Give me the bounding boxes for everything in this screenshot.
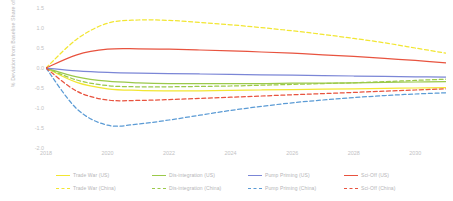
legend-label: Sci-Off (US) [361, 172, 389, 178]
legend-swatch [56, 175, 70, 176]
x-tick-label: 2020 [102, 150, 114, 156]
x-tick-label: 2026 [286, 150, 298, 156]
legend-item[interactable]: Pump Priming (China) [248, 183, 316, 193]
legend-item[interactable]: Trade War (China) [56, 183, 116, 193]
legend-label: Sci-Off (China) [361, 185, 395, 191]
legend-swatch [344, 188, 358, 189]
y-tick-label: -1.5 [35, 125, 44, 131]
legend-swatch [248, 188, 262, 189]
series-line [46, 68, 446, 91]
y-tick-label: 0.0 [37, 65, 45, 71]
y-tick-label: -0.5 [35, 85, 44, 91]
series-line [46, 20, 446, 68]
x-axis-tick-labels: 2018202020222024202620282030 [46, 150, 446, 164]
series-canvas [46, 8, 446, 148]
legend-label: Dis-integration (China) [169, 185, 221, 191]
series-line [46, 68, 446, 77]
x-tick-label: 2022 [163, 150, 175, 156]
legend-item[interactable]: Sci-Off (US) [344, 170, 389, 180]
legend-label: Dis-integration (US) [169, 172, 215, 178]
legend-label: Trade War (China) [73, 185, 116, 191]
y-tick-label: -1.0 [35, 105, 44, 111]
legend-swatch [152, 175, 166, 176]
legend-swatch [344, 175, 358, 176]
chart-legend: Trade War (US)Trade War (China)Dis-integ… [56, 170, 448, 198]
legend-label: Trade War (US) [73, 172, 109, 178]
x-tick-label: 2018 [40, 150, 52, 156]
legend-item[interactable]: Sci-Off (China) [344, 183, 395, 193]
x-tick-label: 2028 [348, 150, 360, 156]
legend-swatch [152, 188, 166, 189]
legend-label: Pump Priming (China) [265, 185, 316, 191]
legend-item[interactable]: Dis-integration (US) [152, 170, 215, 180]
y-tick-label: 0.5 [37, 45, 45, 51]
chart-figure: % Deviation from Baseline Share of GDP 1… [0, 0, 453, 201]
plot-area [46, 8, 446, 148]
y-tick-label: 1.5 [37, 5, 45, 11]
series-line [46, 49, 446, 68]
x-tick-label: 2024 [225, 150, 237, 156]
legend-item[interactable]: Trade War (US) [56, 170, 109, 180]
legend-swatch [56, 188, 70, 189]
legend-item[interactable]: Dis-integration (China) [152, 183, 221, 193]
legend-item[interactable]: Pump Priming (US) [248, 170, 310, 180]
y-axis-title: % Deviation from Baseline Share of GDP [10, 0, 16, 102]
x-tick-label: 2030 [409, 150, 421, 156]
y-axis-tick-labels: 1.51.00.50.0-0.5-1.0-1.5-2.0 [20, 8, 44, 148]
legend-swatch [248, 175, 262, 176]
legend-label: Pump Priming (US) [265, 172, 310, 178]
y-tick-label: 1.0 [37, 25, 45, 31]
